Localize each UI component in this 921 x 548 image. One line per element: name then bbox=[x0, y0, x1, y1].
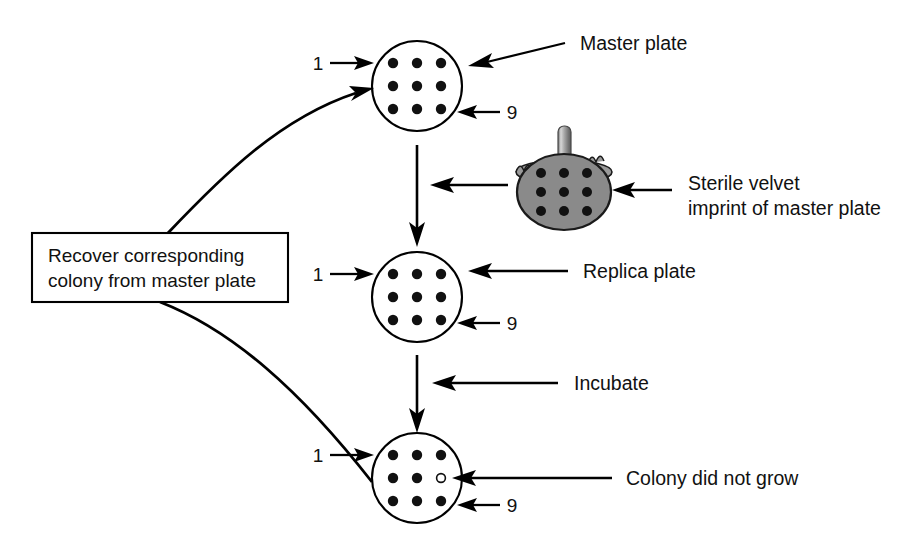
incubated-plate-first-colony-label: 1 bbox=[313, 445, 324, 466]
incubated-colony-2 bbox=[412, 450, 422, 460]
master-plate-last-colony-label: 9 bbox=[507, 102, 518, 123]
incubated-colony-6-missing bbox=[437, 474, 446, 483]
velvet-imprint-colonies bbox=[536, 168, 592, 216]
colony-6 bbox=[436, 81, 446, 91]
master-plate-colonies bbox=[388, 58, 446, 114]
incubated-plate-colonies bbox=[388, 450, 446, 506]
imprint-colony-5 bbox=[559, 187, 569, 197]
incubated-plate-group: 1 9 Colony did not grow bbox=[313, 433, 800, 523]
colony-7 bbox=[388, 104, 398, 114]
replica-colony-6 bbox=[436, 292, 446, 302]
incubated-colony-4 bbox=[388, 473, 398, 483]
incubated-colony-1 bbox=[388, 450, 398, 460]
colony-3 bbox=[436, 58, 446, 68]
incubate-label: Incubate bbox=[574, 372, 649, 394]
incubated-colony-5 bbox=[412, 473, 422, 483]
replica-colony-3 bbox=[436, 269, 446, 279]
velvet-label-line2: imprint of master plate bbox=[688, 197, 881, 219]
replica-plate-colonies bbox=[388, 269, 446, 325]
recover-box-line2: colony from master plate bbox=[48, 270, 256, 291]
master-plate-label: Master plate bbox=[580, 32, 687, 54]
imprint-colony-4 bbox=[536, 187, 546, 197]
colony-5 bbox=[412, 81, 422, 91]
replica-colony-8 bbox=[412, 315, 422, 325]
replica-colony-7 bbox=[388, 315, 398, 325]
imprint-colony-8 bbox=[559, 206, 569, 216]
replica-plating-diagram: 1 9 Master plate bbox=[0, 0, 921, 548]
replica-plate-first-colony-label: 1 bbox=[313, 264, 324, 285]
colony-8 bbox=[412, 104, 422, 114]
master-to-replica-flow bbox=[409, 145, 425, 247]
colony-9 bbox=[436, 104, 446, 114]
recover-curve-to-master bbox=[168, 93, 356, 233]
diagram-canvas: 1 9 Master plate bbox=[0, 0, 921, 548]
replica-plate-group: 1 9 Replica plate bbox=[313, 252, 696, 342]
incubated-colony-7 bbox=[388, 496, 398, 506]
replica-plate-last-colony-label: 9 bbox=[507, 313, 518, 334]
colony-4 bbox=[388, 81, 398, 91]
imprint-colony-2 bbox=[559, 168, 569, 178]
incubated-plate-last-colony-label: 9 bbox=[507, 495, 518, 516]
replica-plate-label: Replica plate bbox=[583, 260, 696, 282]
no-growth-label: Colony did not grow bbox=[626, 467, 799, 489]
recover-box-line1: Recover corresponding bbox=[48, 245, 244, 266]
colony-1 bbox=[388, 58, 398, 68]
master-plate-first-colony-label: 1 bbox=[313, 53, 324, 74]
velvet-label-line1: Sterile velvet bbox=[688, 172, 800, 194]
master-plate-group: 1 9 Master plate bbox=[313, 32, 688, 131]
recover-box bbox=[32, 233, 288, 302]
replica-colony-1 bbox=[388, 269, 398, 279]
imprint-colony-7 bbox=[536, 206, 546, 216]
replica-colony-5 bbox=[412, 292, 422, 302]
incubated-colony-9 bbox=[436, 496, 446, 506]
imprint-colony-6 bbox=[582, 187, 592, 197]
master-plate-label-line bbox=[487, 43, 565, 62]
replica-colony-9 bbox=[436, 315, 446, 325]
imprint-colony-1 bbox=[536, 168, 546, 178]
colony-2 bbox=[412, 58, 422, 68]
replica-colony-2 bbox=[412, 269, 422, 279]
imprint-colony-3 bbox=[582, 168, 592, 178]
sterile-velvet-stamp: Sterile velvet imprint of master plate bbox=[430, 126, 881, 230]
incubate-flow: Incubate bbox=[409, 355, 649, 433]
imprint-colony-9 bbox=[582, 206, 592, 216]
incubated-colony-8 bbox=[412, 496, 422, 506]
incubated-colony-3 bbox=[436, 450, 446, 460]
replica-colony-4 bbox=[388, 292, 398, 302]
